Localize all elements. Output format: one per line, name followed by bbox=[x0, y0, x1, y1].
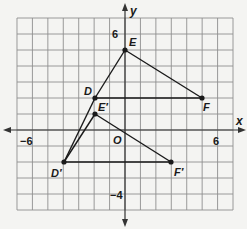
label-E-prime: E′ bbox=[98, 101, 109, 113]
y-axis bbox=[122, 3, 128, 227]
triangle-segments bbox=[64, 50, 202, 162]
x-axis-label: x bbox=[235, 114, 244, 128]
x-axis-arrow-left-icon bbox=[3, 127, 11, 133]
coordinate-graph: x y O −6 6 6 −4 D E F D′ E′ F′ bbox=[0, 0, 247, 229]
x-tick-label-neg6: −6 bbox=[20, 135, 33, 147]
label-F-prime: F′ bbox=[174, 166, 185, 178]
x-tick-label-6: 6 bbox=[213, 135, 219, 147]
label-F: F bbox=[203, 101, 210, 113]
y-tick-label-neg4: −4 bbox=[110, 189, 123, 201]
origin-label: O bbox=[113, 134, 122, 146]
y-axis-arrow-up-icon bbox=[122, 3, 128, 11]
points bbox=[61, 47, 204, 164]
point-F bbox=[199, 95, 204, 100]
point-E-prime bbox=[92, 111, 97, 116]
segment-EF bbox=[125, 50, 202, 98]
label-D: D bbox=[84, 85, 92, 97]
label-E: E bbox=[129, 36, 137, 48]
point-F-prime bbox=[168, 159, 173, 164]
segment-DpEp bbox=[64, 114, 95, 162]
label-D-prime: D′ bbox=[51, 167, 63, 179]
y-axis-label: y bbox=[129, 4, 138, 18]
point-D-prime bbox=[61, 159, 66, 164]
point-D bbox=[92, 95, 97, 100]
point-E bbox=[122, 47, 127, 52]
segment-EpFp bbox=[95, 114, 171, 162]
y-axis-arrow-down-icon bbox=[122, 219, 128, 227]
y-tick-label-6: 6 bbox=[112, 28, 118, 40]
